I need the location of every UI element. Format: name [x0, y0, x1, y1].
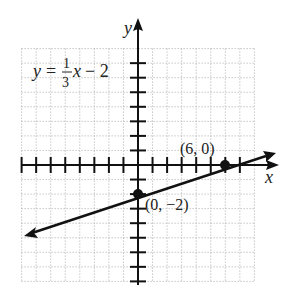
svg-text:x: x: [72, 61, 81, 81]
point-6-0: [220, 160, 230, 170]
x-axis-label: x: [264, 167, 273, 187]
point-label-6-0: (6, 0): [180, 140, 215, 158]
svg-text:=: =: [46, 61, 56, 81]
y-axis-label: y: [122, 18, 132, 38]
svg-text:y: y: [31, 61, 41, 81]
point-0-neg2: [133, 189, 143, 199]
svg-text:− 2: − 2: [85, 61, 109, 81]
axis-ticks: [22, 63, 240, 281]
svg-text:3: 3: [62, 75, 69, 90]
point-label-0-neg2: (0, −2): [145, 196, 189, 214]
graph: y x y = 1 3 x − 2 (6, 0) (0, −2): [0, 0, 291, 297]
svg-text:1: 1: [63, 56, 70, 71]
equation-label: y = 1 3 x − 2: [31, 56, 109, 90]
axes: [22, 18, 279, 285]
